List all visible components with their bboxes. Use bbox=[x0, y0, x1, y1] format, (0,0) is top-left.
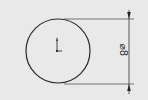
origin-axis-icon bbox=[56, 37, 62, 52]
sketch-canvas[interactable]: ⌀8 bbox=[0, 0, 148, 100]
dimension-arrow-bottom-icon bbox=[127, 84, 131, 91]
dimension-arrow-top-icon bbox=[127, 12, 131, 19]
diameter-dimension-label[interactable]: ⌀8 bbox=[117, 40, 129, 60]
